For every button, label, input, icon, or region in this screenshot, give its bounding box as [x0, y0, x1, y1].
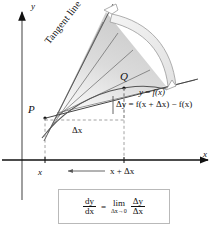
- point-p-label: P: [28, 104, 35, 115]
- y-axis-label: y: [31, 2, 35, 11]
- formula-equals-sign: =: [100, 202, 107, 212]
- point-q-label: Q: [120, 71, 128, 82]
- curve-equation-y: y: [139, 87, 143, 97]
- derivative-formula: dy dx = lim Δx→0 Δy Δx: [83, 197, 145, 217]
- limit-subscript: Δx→0: [111, 208, 127, 214]
- difference-quotient-numerator: Δy: [131, 197, 145, 206]
- curve-equation-equals: =: [145, 87, 150, 97]
- derivative-diagram-figure: y x P Q Tangent line y = f(x) Δy = f(x +…: [0, 0, 220, 234]
- derivative-formula-box: dy dx = lim Δx→0 Δy Δx: [58, 189, 170, 224]
- x-plus-delta-x-tick-label: x + Δx: [110, 167, 134, 176]
- curve-equation-arg: (x): [155, 87, 165, 97]
- derivative-numerator: dy: [83, 197, 96, 206]
- delta-x-label: Δx: [72, 126, 82, 135]
- curve-equation-label: y = f(x): [139, 88, 165, 97]
- x-axis-label: x: [203, 150, 207, 159]
- x-tick-label: x: [38, 168, 42, 177]
- derivative-fraction: dy dx: [83, 197, 96, 217]
- derivative-denominator: dx: [83, 206, 96, 216]
- secant-fan-shading: [58, 12, 166, 112]
- limit-word: lim: [113, 199, 125, 208]
- delta-y-equation-label: Δy = f(x + Δx) − f(x): [116, 100, 192, 109]
- difference-quotient-denominator: Δx: [131, 206, 145, 216]
- limit-operator: lim Δx→0: [111, 199, 127, 215]
- difference-quotient-fraction: Δy Δx: [131, 197, 145, 217]
